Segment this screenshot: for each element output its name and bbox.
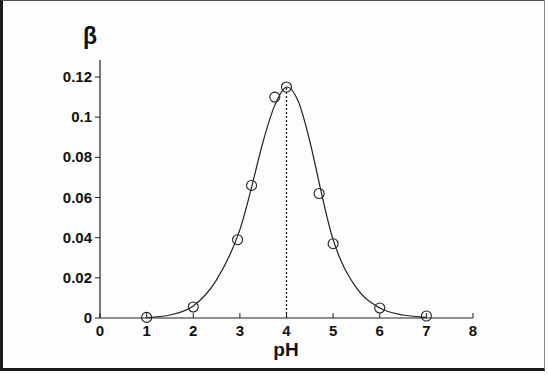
x-axis-title: pH: [273, 339, 298, 360]
x-tick-label: 4: [282, 322, 291, 339]
y-tick-label: 0.1: [71, 108, 92, 125]
y-tick-label: 0.06: [63, 189, 92, 206]
data-points: [142, 82, 432, 322]
x-tick-label: 1: [142, 322, 150, 339]
y-axis-title: β: [83, 23, 97, 49]
x-tick-label: 2: [189, 322, 197, 339]
x-tick-label: 0: [96, 322, 104, 339]
data-point-marker: [188, 302, 198, 312]
x-tick-label: 7: [422, 322, 430, 339]
x-tick-label: 8: [469, 322, 477, 339]
x-tick-label: 3: [236, 322, 244, 339]
x-tick-label: 5: [329, 322, 337, 339]
beta-vs-ph-chart: 01234567800.020.040.060.080.10.12 pH β: [0, 0, 548, 375]
axes: 01234567800.020.040.060.080.10.12: [63, 60, 477, 339]
y-tick-label: 0.12: [63, 68, 92, 85]
data-point-marker: [314, 188, 324, 198]
y-tick-label: 0.04: [63, 229, 93, 246]
y-tick-label: 0: [84, 309, 92, 326]
y-tick-label: 0.08: [63, 148, 92, 165]
x-tick-label: 6: [376, 322, 384, 339]
y-tick-label: 0.02: [63, 269, 92, 286]
